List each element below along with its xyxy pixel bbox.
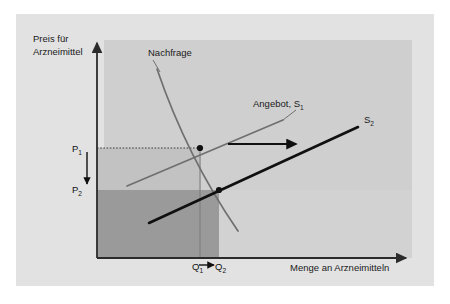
quantity-tick-q2: Q2 xyxy=(215,261,226,274)
price-tick-p1: P1 xyxy=(72,143,82,156)
supply-s1-label-subscript: 1 xyxy=(300,104,304,111)
price-tick-p2: P2 xyxy=(72,184,82,197)
y-axis-label-line1: Preis für xyxy=(33,33,68,44)
price-tick-p1-subscript: 1 xyxy=(78,149,82,156)
shaded-region-upper xyxy=(97,148,201,190)
x-axis-label: Menge an Arzneimitteln xyxy=(290,262,389,273)
quantity-tick-q1: Q1 xyxy=(192,261,203,274)
quantity-tick-q2-subscript: 2 xyxy=(222,267,226,274)
figure-root: Preis für Arzneimittel Menge an Arzneimi… xyxy=(0,0,450,304)
supply-s2-label-subscript: 2 xyxy=(370,120,374,127)
quantity-tick-q2-text: Q xyxy=(215,261,222,272)
equilibrium-point-2 xyxy=(216,187,222,193)
supply-s1-label-text: Angebot, S xyxy=(253,98,300,109)
quantity-tick-q1-subscript: 1 xyxy=(199,267,203,274)
supply-demand-chart: Preis für Arzneimittel Menge an Arzneimi… xyxy=(0,0,450,304)
price-tick-p2-subscript: 2 xyxy=(78,190,82,197)
quantity-tick-q1-text: Q xyxy=(192,261,199,272)
demand-curve-label: Nachfrage xyxy=(148,47,192,58)
supply-s1-label: Angebot, S1 xyxy=(253,98,304,111)
equilibrium-point-1 xyxy=(197,145,203,151)
y-axis-label-line2: Arzneimittel xyxy=(33,46,83,57)
